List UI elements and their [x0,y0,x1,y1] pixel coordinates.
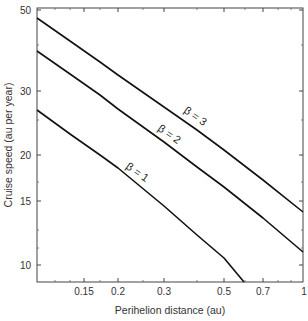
x-tick-0.3: 0.3 [157,286,171,297]
label-beta-2: β = 2 [156,122,183,146]
y-tick-30: 30 [20,86,32,97]
curve-beta-2 [37,51,303,252]
y-tick-labels: 50 30 20 15 10 [20,5,32,271]
x-tick-labels: 0.15 0.2 0.3 0.5 0.7 1 [74,286,307,297]
x-tick-0.15: 0.15 [74,286,94,297]
x-axis-minor-ticks [55,8,291,282]
label-beta-1: β = 1 [124,160,151,184]
x-tick-0.2: 0.2 [111,286,125,297]
chart-canvas: 50 30 20 15 10 0.15 0.2 0.3 0.5 0.7 1 Pe… [0,0,308,321]
curve-beta-1 [37,110,244,282]
plot-frame [37,8,303,282]
y-axis-label: Cruise speed (au per year) [2,83,14,208]
x-tick-0.5: 0.5 [217,286,231,297]
x-tick-0.7: 0.7 [256,286,270,297]
label-beta-3: β = 3 [182,104,209,128]
x-tick-1: 1 [301,286,307,297]
x-axis-ticks [84,8,263,282]
y-tick-10: 10 [20,260,32,271]
y-tick-50: 50 [20,5,32,16]
y-tick-15: 15 [20,196,32,207]
x-axis-label: Perihelion distance (au) [115,304,225,316]
curve-beta-3 [37,18,303,212]
y-tick-20: 20 [20,150,32,161]
